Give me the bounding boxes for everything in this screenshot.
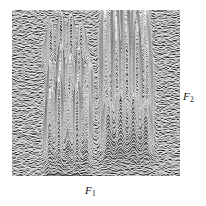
axis-label-f2: F2 (183, 90, 193, 102)
axis-label-f2-letter: F (183, 90, 190, 102)
spectrum-plot-area (12, 10, 180, 176)
axis-label-f1-letter: F (85, 184, 92, 196)
trace-group (12, 10, 180, 176)
axis-label-f2-subscript: 2 (190, 95, 194, 104)
axis-label-f1-subscript: 1 (92, 189, 96, 198)
stacked-spectrum-svg (12, 10, 180, 176)
figure-container: F2 F1 (0, 0, 206, 206)
axis-label-f1: F1 (85, 184, 95, 196)
